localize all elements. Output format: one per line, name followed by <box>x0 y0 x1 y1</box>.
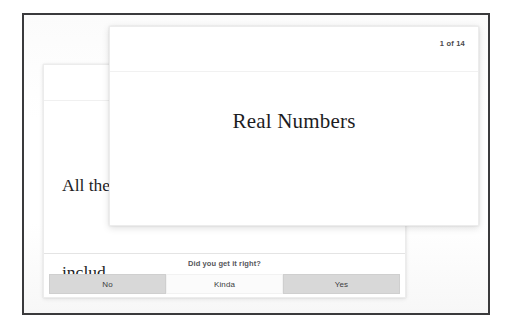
device-frame: All the includ all fra Did you get it ri… <box>22 13 490 315</box>
rating-button-kinda[interactable]: Kinda <box>166 274 283 294</box>
question-title: Real Numbers <box>110 109 478 134</box>
footer-separator <box>44 253 405 254</box>
question-card-divider <box>110 71 478 72</box>
rating-button-row: No Kinda Yes <box>49 274 400 294</box>
rating-button-yes[interactable]: Yes <box>283 274 400 294</box>
rating-button-no[interactable]: No <box>49 274 166 294</box>
question-card[interactable]: 1 of 14 Real Numbers <box>109 26 479 226</box>
card-counter: 1 of 14 <box>440 39 465 48</box>
rating-prompt: Did you get it right? <box>44 259 405 268</box>
screenshot-root: All the includ all fra Did you get it ri… <box>0 0 513 331</box>
